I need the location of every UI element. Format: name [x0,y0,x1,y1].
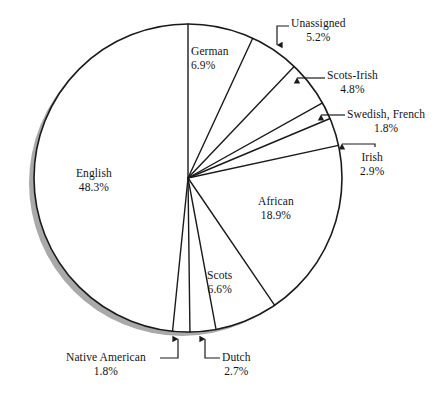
slice-label-scots-irish-value: 4.8% [327,83,378,97]
slice-label-native-american-name: Native American [66,351,146,365]
slice-label-dutch-name: Dutch [222,351,251,365]
slice-label-scots: Scots 6.6% [207,269,232,296]
leader-dutch [205,339,220,358]
slice-label-german-name: German [191,45,229,59]
leader-native-american [160,339,178,358]
slice-label-german: German 6.9% [191,45,229,72]
slice-label-native-american: Native American 1.8% [66,351,146,378]
slice-label-english: English 48.3% [76,167,112,194]
slice-label-english-name: English [76,167,112,181]
pie-chart-figure: German 6.9% Unassigned 5.2% Scots-Irish … [0,0,448,396]
slice-label-african-name: African [258,195,294,209]
slice-label-scots-value: 6.6% [207,283,232,297]
slice-label-swedish-french-name: Swedish, French [347,108,425,122]
slice-label-dutch: Dutch 2.7% [222,351,251,378]
leader-unassigned [277,26,289,45]
slice-label-unassigned-value: 5.2% [291,31,346,45]
slice-label-english-value: 48.3% [76,181,112,195]
slice-label-african-value: 18.9% [258,209,294,223]
slice-label-native-american-value: 1.8% [66,365,146,379]
slice-label-irish: Irish 2.9% [360,151,384,178]
slice-label-dutch-value: 2.7% [222,365,251,379]
slice-label-scots-irish: Scots-Irish 4.8% [327,69,378,96]
leader-irish [342,144,375,147]
slice-label-scots-irish-name: Scots-Irish [327,69,378,83]
slice-label-swedish-french: Swedish, French 1.8% [347,108,425,135]
slice-label-german-value: 6.9% [191,59,229,73]
slice-label-irish-value: 2.9% [360,165,384,179]
slice-label-african: African 18.9% [258,195,294,222]
slice-label-unassigned: Unassigned 5.2% [291,17,346,44]
slice-label-unassigned-name: Unassigned [291,17,346,31]
slice-label-scots-name: Scots [207,269,232,283]
slice-label-swedish-french-value: 1.8% [347,122,425,136]
slice-label-irish-name: Irish [360,151,384,165]
